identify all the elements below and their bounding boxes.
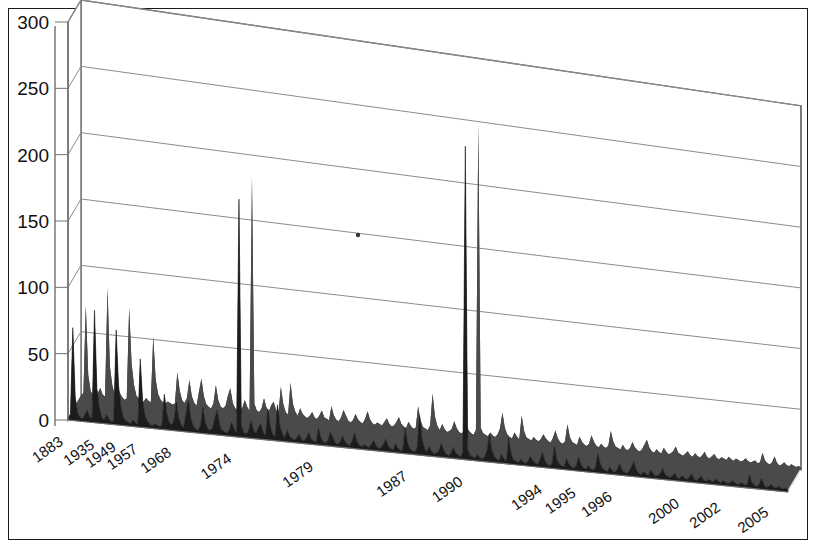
x-axis-tick-label: 2002	[686, 498, 723, 531]
y-axis-tick-label: 200	[17, 145, 49, 166]
svg-text:1996: 1996	[578, 487, 615, 520]
svg-text:1994: 1994	[508, 480, 545, 513]
svg-text:1987: 1987	[373, 467, 410, 500]
x-axis-tick-label: 1994	[508, 480, 545, 513]
svg-text:1979: 1979	[279, 458, 316, 491]
svg-text:1995: 1995	[542, 484, 579, 517]
chart-image-frame: 0501001502002503001883193519491957196819…	[0, 0, 817, 550]
svg-text:1990: 1990	[428, 473, 465, 506]
x-axis-tick-label: 1990	[428, 473, 465, 506]
y-axis-tick-label: 0	[38, 410, 49, 431]
three-d-area-chart: 0501001502002503001883193519491957196819…	[0, 0, 817, 550]
svg-text:2002: 2002	[686, 498, 723, 531]
x-axis-tick-label: 1996	[578, 487, 615, 520]
y-axis-tick-label: 50	[28, 344, 49, 365]
y-axis-tick-label: 300	[17, 12, 49, 33]
stray-dot-marker	[356, 233, 360, 237]
x-axis-tick-label: 1974	[197, 449, 234, 482]
svg-text:1883: 1883	[29, 433, 66, 466]
svg-text:1974: 1974	[197, 449, 234, 482]
x-axis-tick-label: 2000	[645, 494, 682, 527]
y-axis-tick-label: 250	[17, 78, 49, 99]
x-axis-tick-label: 1883	[29, 433, 66, 466]
x-axis-tick-label: 1979	[279, 458, 316, 491]
x-axis-tick-label: 2005	[734, 503, 771, 536]
y-axis-tick-label: 150	[17, 211, 49, 232]
y-axis-tick-label: 100	[17, 277, 49, 298]
svg-text:2005: 2005	[734, 503, 771, 536]
x-axis-tick-label: 1995	[542, 484, 579, 517]
svg-text:2000: 2000	[645, 494, 682, 527]
x-axis-tick-label: 1968	[137, 443, 174, 476]
x-axis-tick-label: 1987	[373, 467, 410, 500]
svg-text:1968: 1968	[137, 443, 174, 476]
